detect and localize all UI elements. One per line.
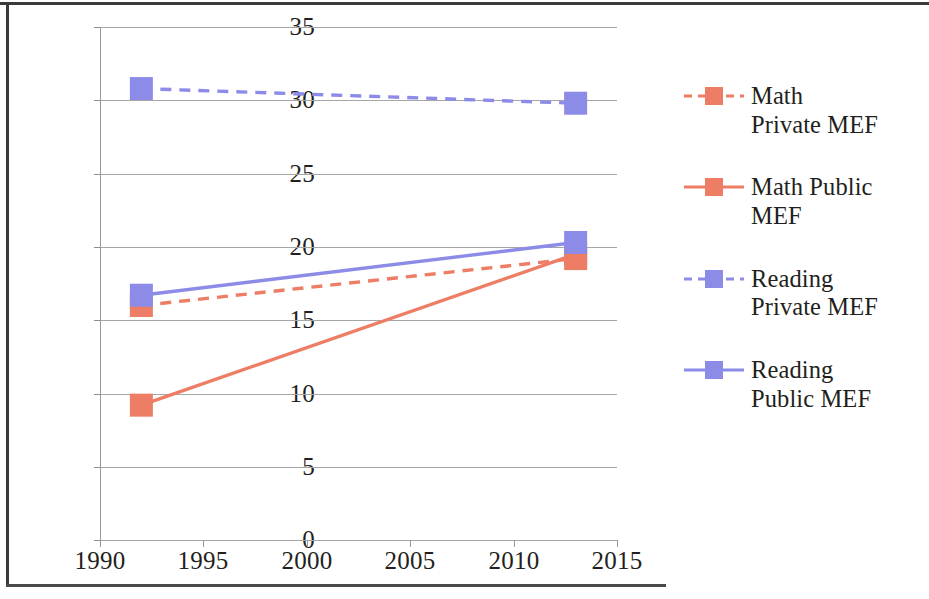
legend-swatch-math-public-mef — [683, 173, 745, 201]
legend-label: Math Private MEF — [751, 82, 878, 139]
legend-label-line2: MEF — [751, 202, 802, 229]
plot-area — [100, 27, 617, 540]
legend-label-line1: Reading — [751, 265, 833, 292]
data-point-marker[interactable] — [564, 231, 587, 254]
x-axis-tick — [410, 540, 411, 547]
series-layer — [100, 27, 617, 540]
data-point-marker[interactable] — [130, 284, 153, 307]
chart-page: 35 30 25 20 15 10 5 0 1990 1995 2000 200… — [0, 0, 929, 599]
line-chart: 35 30 25 20 15 10 5 0 1990 1995 2000 200… — [0, 0, 929, 599]
series-line — [141, 242, 575, 295]
legend-item-reading-private-mef[interactable]: Reading Private MEF — [683, 265, 923, 322]
legend-label: Reading Public MEF — [751, 356, 871, 413]
x-axis-tick-label: 1990 — [55, 548, 145, 573]
x-axis-tick — [100, 540, 101, 547]
legend-swatch-math-private-mef — [683, 82, 745, 110]
legend-label-line2: Private MEF — [751, 293, 878, 320]
x-axis-tick-label: 1995 — [158, 548, 248, 573]
x-axis-tick-label: 2005 — [365, 548, 455, 573]
x-axis-tick — [203, 540, 204, 547]
legend-item-math-private-mef[interactable]: Math Private MEF — [683, 82, 923, 139]
legend-label-line1: Reading — [751, 356, 833, 383]
x-axis-tick — [617, 540, 618, 547]
series-line — [141, 259, 575, 306]
legend-label: Reading Private MEF — [751, 265, 878, 322]
data-point-marker[interactable] — [130, 77, 153, 100]
legend-label-line2: Public MEF — [751, 385, 871, 412]
data-point-marker[interactable] — [130, 394, 153, 417]
x-axis-tick-label: 2015 — [572, 548, 662, 573]
legend-item-math-public-mef[interactable]: Math Public MEF — [683, 173, 923, 230]
legend-label-line2: Private MEF — [751, 111, 878, 138]
x-axis-tick — [307, 540, 308, 547]
x-axis-tick — [514, 540, 515, 547]
data-point-marker[interactable] — [564, 92, 587, 115]
legend-label-line1: Math Public — [751, 173, 873, 200]
legend-swatch-reading-private-mef — [683, 265, 745, 293]
chart-legend: Math Private MEF Math Public MEF — [683, 82, 923, 447]
gridline-0 — [100, 540, 617, 541]
legend-item-reading-public-mef[interactable]: Reading Public MEF — [683, 356, 923, 413]
x-axis-tick-label: 2000 — [262, 548, 352, 573]
x-axis-tick-label: 2010 — [469, 548, 559, 573]
legend-label: Math Public MEF — [751, 173, 873, 230]
series-line — [141, 89, 575, 104]
series-line — [141, 254, 575, 405]
legend-label-line1: Math — [751, 82, 803, 109]
legend-swatch-reading-public-mef — [683, 356, 745, 384]
